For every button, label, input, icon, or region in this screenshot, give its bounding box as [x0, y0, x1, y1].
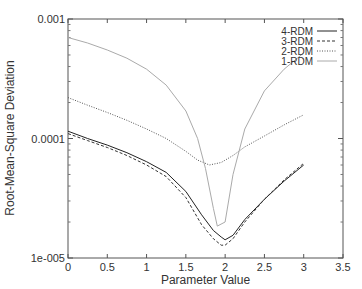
- x-tick-label: 3.5: [335, 261, 350, 273]
- x-tick-label: 3: [301, 261, 307, 273]
- legend: 4-RDM3-RDM2-RDM1-RDM: [281, 26, 337, 67]
- y-axis-title: Root-Mean-Square Deviation: [3, 60, 17, 215]
- series-2-rdm: [68, 98, 304, 165]
- legend-label: 1-RDM: [281, 56, 313, 67]
- series-4-rdm: [68, 131, 304, 240]
- x-tick-label: 2.5: [257, 261, 272, 273]
- series-3-rdm: [68, 134, 304, 246]
- x-axis-title: Parameter Value: [161, 273, 250, 287]
- x-tick-label: 1.5: [178, 261, 193, 273]
- y-tick-label: 1e-005: [31, 252, 65, 264]
- x-tick-label: 1: [144, 261, 150, 273]
- series-layer: [68, 38, 304, 246]
- x-tick-label: 2: [222, 261, 228, 273]
- x-tick-label: 0: [65, 261, 71, 273]
- x-tick-label: 0.5: [100, 261, 115, 273]
- y-tick-label: 0.0001: [31, 133, 65, 145]
- y-tick-label: 0.001: [37, 13, 65, 25]
- rmsd-line-chart: 00.511.522.533.51e-0050.00010.001 4-RDM3…: [0, 0, 362, 289]
